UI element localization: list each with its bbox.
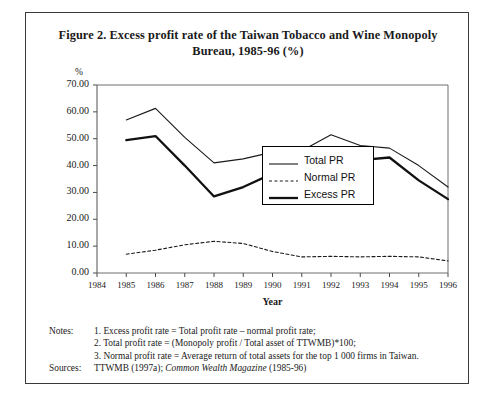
y-axis-tick-label: 50.00 bbox=[45, 132, 89, 143]
notes-label: Notes: bbox=[49, 325, 94, 337]
sources-prefix: TTWMB (1997a); bbox=[94, 363, 165, 373]
y-axis-tick-label: 20.00 bbox=[45, 212, 89, 223]
legend-label-normal-pr: Normal PR bbox=[304, 171, 355, 183]
x-axis-title: Year bbox=[243, 296, 303, 307]
y-axis-tick-label: 30.00 bbox=[45, 185, 89, 196]
note-row-2: 2. Total profit rate = (Monopoly profit … bbox=[49, 337, 454, 349]
sources-italic-title: Common Wealth Magazine bbox=[165, 363, 266, 373]
sources-suffix: (1985-96) bbox=[267, 363, 307, 373]
legend-item-total-pr[interactable]: Total PR bbox=[263, 151, 373, 168]
y-axis-tick-label: 0.00 bbox=[45, 266, 89, 277]
legend-swatch-excess-pr bbox=[268, 189, 299, 199]
sources-text: TTWMB (1997a); Common Wealth Magazine (1… bbox=[94, 362, 454, 374]
chart-legend: Total PR Normal PR Excess PR bbox=[262, 146, 374, 205]
y-axis-unit-label: % bbox=[75, 67, 83, 77]
figure-container: Figure 2. Excess profit rate of the Taiw… bbox=[25, 12, 469, 384]
legend-label-excess-pr: Excess PR bbox=[304, 188, 355, 200]
sources-label: Sources: bbox=[49, 362, 94, 374]
legend-item-excess-pr[interactable]: Excess PR bbox=[263, 185, 373, 202]
x-axis-tick-label: 1996 bbox=[431, 280, 465, 290]
note-row-sources: Sources: TTWMB (1997a); Common Wealth Ma… bbox=[49, 362, 454, 374]
note-item-3: 3. Normal profit rate = Average return o… bbox=[94, 350, 454, 362]
legend-swatch-total-pr bbox=[268, 155, 299, 165]
series-line-normal-pr bbox=[126, 241, 448, 261]
note-item-2: 2. Total profit rate = (Monopoly profit … bbox=[94, 337, 454, 349]
y-axis-tick-label: 40.00 bbox=[45, 159, 89, 170]
legend-swatch-normal-pr bbox=[268, 172, 299, 182]
note-row-1: Notes: 1. Excess profit rate = Total pro… bbox=[49, 325, 454, 337]
legend-label-total-pr: Total PR bbox=[304, 154, 344, 166]
legend-item-normal-pr[interactable]: Normal PR bbox=[263, 168, 373, 185]
note-key-blank-3 bbox=[49, 350, 94, 362]
y-axis-tick-label: 10.00 bbox=[45, 239, 89, 250]
y-axis-tick-label: 70.00 bbox=[45, 78, 89, 89]
note-key-blank-2 bbox=[49, 337, 94, 349]
note-row-3: 3. Normal profit rate = Average return o… bbox=[49, 350, 454, 362]
notes-block: Notes: 1. Excess profit rate = Total pro… bbox=[49, 325, 454, 375]
y-axis-tick-label: 60.00 bbox=[45, 105, 89, 116]
note-item-1: 1. Excess profit rate = Total profit rat… bbox=[94, 325, 454, 337]
